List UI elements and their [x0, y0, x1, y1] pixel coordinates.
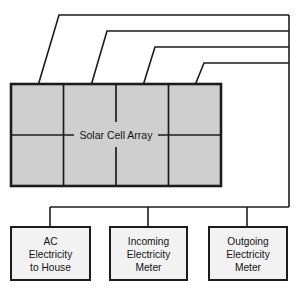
node-label-line-3: Meter	[135, 262, 162, 273]
node-incoming-electricity-meter[interactable]: Incoming Electricity Meter	[110, 227, 187, 280]
node-label-line-1: Incoming	[128, 236, 170, 247]
diagram-canvas: Solar Cell Array AC Electricity to House…	[0, 0, 302, 295]
feeder-line-4	[196, 63, 290, 84]
feeder-line-1	[39, 15, 290, 84]
node-outgoing-electricity-meter[interactable]: Outgoing Electricity Meter	[209, 227, 287, 280]
solar-array-label: Solar Cell Array	[80, 129, 154, 141]
solar-cell-array[interactable]: Solar Cell Array	[11, 84, 221, 186]
node-label-line-1: AC	[43, 236, 57, 247]
node-label-line-3: Meter	[235, 262, 262, 273]
node-label-line-1: Outgoing	[227, 236, 269, 247]
node-label-line-2: Electricity	[127, 249, 171, 260]
node-ac-electricity-to-house[interactable]: AC Electricity to House	[11, 227, 90, 280]
feeder-line-3	[144, 47, 290, 84]
feeder-line-2	[92, 31, 290, 84]
solar-system-diagram: Solar Cell Array AC Electricity to House…	[0, 0, 302, 295]
node-label-line-2: Electricity	[29, 249, 73, 260]
node-label-line-3: to House	[30, 262, 71, 273]
node-label-line-2: Electricity	[226, 249, 270, 260]
